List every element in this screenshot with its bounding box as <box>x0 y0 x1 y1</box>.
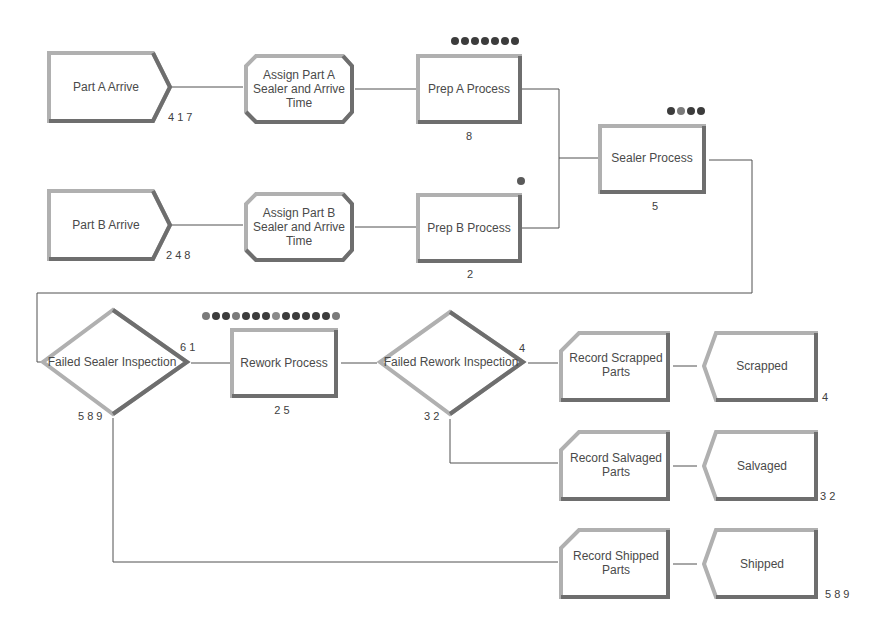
module-label: Part B Arrive <box>72 218 140 232</box>
module-salvaged[interactable]: Salvaged 3 2 <box>704 432 835 502</box>
false-branch-counter: 5 8 9 <box>78 410 102 422</box>
module-label-line-1: Assign Part B <box>263 206 336 220</box>
module-label: Scrapped <box>736 359 787 373</box>
module-counter: 5 <box>652 200 658 212</box>
module-sealer-process[interactable]: Sealer Process 5 <box>600 107 705 212</box>
module-counter: 5 8 9 <box>825 588 849 600</box>
module-scrapped[interactable]: Scrapped 4 <box>704 333 828 403</box>
module-label: Failed Sealer Inspection <box>48 355 177 369</box>
module-label: Failed Rework Inspection <box>384 355 519 369</box>
connector-prepb-sealer[interactable] <box>522 158 559 228</box>
module-label-line-2: Parts <box>602 365 630 379</box>
module-part-b-arrive[interactable]: Part B Arrive 2 4 8 <box>49 191 190 261</box>
module-counter: 8 <box>466 130 472 142</box>
module-prep-b-process[interactable]: Prep B Process 2 <box>418 177 525 280</box>
connector-prepa-sealer[interactable] <box>522 89 598 158</box>
module-label-line-3: Time <box>286 96 313 110</box>
module-counter: 2 <box>467 268 473 280</box>
module-counter: 4 1 7 <box>168 111 192 123</box>
connector-reworkinspection-recordsalvaged[interactable] <box>450 419 558 463</box>
true-branch-counter: 6 1 <box>180 341 195 353</box>
module-label-line-2: Parts <box>602 465 630 479</box>
module-label: Rework Process <box>240 356 327 370</box>
module-counter: 2 5 <box>274 404 289 416</box>
flowchart-canvas: Part A Arrive 4 1 7 Assign Part A Sealer… <box>0 0 893 631</box>
module-label-line-2: Sealer and Arrive <box>253 82 345 96</box>
module-label: Part A Arrive <box>73 80 139 94</box>
module-label-line-2: Sealer and Arrive <box>253 220 345 234</box>
module-label-line-1: Assign Part A <box>263 68 335 82</box>
module-label: Shipped <box>740 557 784 571</box>
module-shipped[interactable]: Shipped 5 8 9 <box>704 530 849 600</box>
module-label: Salvaged <box>737 459 787 473</box>
module-label: Sealer Process <box>611 151 692 165</box>
module-assign-part-a[interactable]: Assign Part A Sealer and Arrive Time <box>246 56 352 122</box>
module-label-line-3: Time <box>286 234 313 248</box>
module-rework-process[interactable]: Rework Process 2 5 <box>202 312 340 416</box>
true-branch-counter: 4 <box>519 342 525 354</box>
module-record-scrapped-parts[interactable]: Record Scrapped Parts <box>561 333 668 400</box>
module-failed-rework-inspection[interactable]: Failed Rework Inspection 4 3 2 <box>380 312 525 422</box>
module-failed-sealer-inspection[interactable]: Failed Sealer Inspection 6 1 5 8 9 <box>43 310 195 422</box>
module-record-salvaged-parts[interactable]: Record Salvaged Parts <box>561 432 668 499</box>
module-counter: 3 2 <box>820 490 835 502</box>
module-prep-a-process[interactable]: Prep A Process 8 <box>418 37 520 142</box>
module-counter: 4 <box>822 391 828 403</box>
module-assign-part-b[interactable]: Assign Part B Sealer and Arrive Time <box>246 194 352 260</box>
module-label-line-1: Record Salvaged <box>570 451 662 465</box>
connector-inspection-recordshipped[interactable] <box>113 418 558 562</box>
queue-entities <box>517 177 525 185</box>
queue-entities <box>202 312 340 320</box>
module-label-line-2: Parts <box>602 563 630 577</box>
module-counter: 2 4 8 <box>166 249 190 261</box>
queue-entities <box>667 107 705 115</box>
module-label: Prep A Process <box>428 82 510 96</box>
queue-entities <box>451 37 519 45</box>
module-label-line-1: Record Shipped <box>573 549 659 563</box>
module-label: Prep B Process <box>427 221 510 235</box>
module-record-shipped-parts[interactable]: Record Shipped Parts <box>561 530 668 597</box>
false-branch-counter: 3 2 <box>424 410 439 422</box>
module-label-line-1: Record Scrapped <box>569 351 662 365</box>
module-part-a-arrive[interactable]: Part A Arrive 4 1 7 <box>49 53 192 123</box>
